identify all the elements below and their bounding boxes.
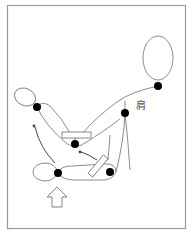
arm-movement-diagram [0,0,193,238]
shoulder-label: 肩 [136,101,146,111]
band-connector-right [108,135,110,160]
head-shape [143,36,173,80]
joint-upper-elbow [71,140,79,148]
arrow-head-middle [79,151,82,154]
diagram-frame [8,6,186,229]
lower-arm-band [88,155,108,177]
push-up-arrow-icon [47,187,67,207]
upper-forearm-outline-top [37,103,70,133]
lower-hand-shape [33,163,57,181]
joint-lower-wrist [54,169,62,177]
joint-neck [154,82,162,90]
joint-lower-elbow [106,168,114,176]
arrow-head-left [33,125,36,128]
joint-shoulder [121,109,129,117]
joint-upper-wrist [33,103,41,111]
upper-arm-outline-top [82,102,117,134]
torso-line-left [116,113,125,172]
torso-line-right [125,113,130,170]
upper-arm-band [62,132,91,138]
movement-arrow-left [35,127,55,163]
movement-arrow-middle [81,152,97,160]
